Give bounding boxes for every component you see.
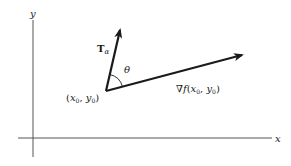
angle-theta-label: θ xyxy=(124,64,130,75)
tangent-vector-arrow xyxy=(106,30,120,91)
tangent-vector-label: Tα xyxy=(97,43,109,56)
x-axis-label: x xyxy=(275,133,281,144)
gradient-angle-diagram: y x Tα ∇f(x0, y0) θ (x0, y0) xyxy=(0,0,291,166)
gradient-vector-label: ∇f(x0, y0) xyxy=(176,83,220,95)
point-label: (x0, y0) xyxy=(66,92,99,104)
y-axis-label: y xyxy=(29,8,36,19)
angle-arc xyxy=(110,75,123,87)
